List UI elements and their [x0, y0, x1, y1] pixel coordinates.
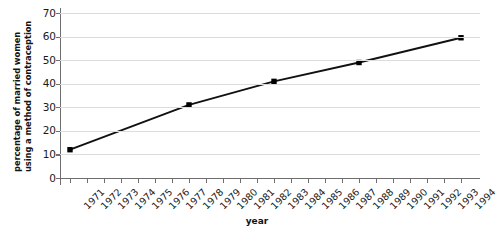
x-axis-tick-mark — [189, 178, 190, 183]
x-axis-tick-mark — [444, 178, 445, 183]
x-axis-tick-mark — [206, 178, 207, 183]
gridline — [60, 13, 480, 14]
x-axis-tick-mark — [172, 178, 173, 183]
x-axis-tick-mark — [104, 178, 105, 183]
x-axis-tick-mark — [274, 178, 275, 183]
x-axis-tick-mark — [87, 178, 88, 183]
x-axis-tick-mark — [359, 178, 360, 183]
x-axis-tick-mark — [308, 178, 309, 183]
x-axis-tick-mark — [393, 178, 394, 183]
x-axis-tick-mark — [461, 178, 462, 183]
y-axis-tick-mark — [56, 178, 60, 179]
gridline — [60, 154, 480, 155]
x-axis-tick-mark — [70, 178, 71, 183]
x-axis-tick-mark — [376, 178, 377, 183]
x-axis-tick-mark — [325, 178, 326, 183]
gridline — [60, 131, 480, 132]
x-axis-title: year — [0, 216, 486, 226]
x-axis-tick-mark — [257, 178, 258, 183]
x-axis-tick-mark — [427, 178, 428, 183]
x-axis-tick-mark — [342, 178, 343, 183]
gridline — [60, 37, 480, 38]
x-axis-tick-mark — [121, 178, 122, 183]
x-axis-tick-mark — [138, 178, 139, 183]
gridline — [60, 60, 480, 61]
x-axis-tick-mark — [240, 178, 241, 183]
x-axis-tick-mark — [223, 178, 224, 183]
x-axis-tick-mark — [155, 178, 156, 183]
gridline — [60, 84, 480, 85]
x-axis-tick-mark — [410, 178, 411, 183]
gridline — [60, 107, 480, 108]
x-axis-tick-mark — [291, 178, 292, 183]
